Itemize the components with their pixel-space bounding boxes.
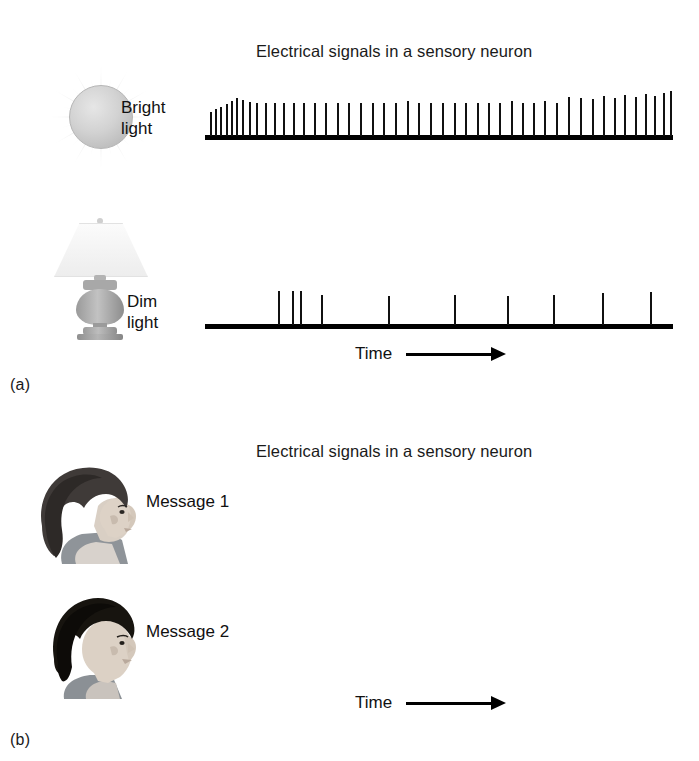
- panel-b-label: (b): [10, 731, 30, 749]
- spike: [654, 96, 656, 136]
- spike: [507, 296, 509, 325]
- spike: [325, 103, 327, 136]
- spike: [568, 97, 570, 136]
- spike: [383, 103, 385, 136]
- spike: [624, 95, 626, 136]
- row-label-message-2: Message 2: [146, 621, 229, 642]
- panel-b: Electrical signals in a sensory neuron M…: [0, 405, 699, 761]
- spike: [314, 103, 316, 136]
- spike: [321, 295, 323, 325]
- spike: [348, 103, 350, 136]
- spike: [418, 103, 420, 136]
- spike: [614, 98, 616, 136]
- spike: [650, 292, 652, 325]
- spike-train-figure: Electrical signals in a sensory neuron B…: [0, 0, 699, 761]
- spike-train-dim-light: [205, 283, 673, 329]
- spike: [226, 104, 228, 136]
- spike: [407, 101, 409, 136]
- row-label-bright-light: Bright light: [121, 97, 165, 139]
- spike: [265, 103, 267, 136]
- spike: [592, 99, 594, 136]
- row-label-message-1: Message 1: [146, 491, 229, 512]
- spike: [278, 291, 280, 325]
- spike: [477, 103, 479, 136]
- right-arrow-icon: [406, 349, 506, 359]
- panel-a-title: Electrical signals in a sensory neuron: [256, 42, 532, 61]
- row-label-dim-light: Dim light: [127, 291, 158, 333]
- lamp-body: [76, 289, 124, 325]
- spike: [388, 296, 390, 325]
- panel-b-title: Electrical signals in a sensory neuron: [256, 442, 532, 461]
- spike-train-bright-light: [205, 88, 673, 140]
- spike: [663, 93, 665, 136]
- spike: [522, 103, 524, 136]
- spike: [499, 103, 501, 136]
- lamp-foot: [77, 334, 123, 340]
- spike: [337, 103, 339, 136]
- spike: [256, 103, 258, 136]
- spike: [293, 103, 295, 136]
- spike: [544, 101, 546, 136]
- time-axis-b: Time: [355, 693, 506, 713]
- spike: [442, 103, 444, 136]
- spike: [488, 103, 490, 136]
- spike: [292, 291, 294, 325]
- spike: [215, 109, 217, 136]
- spike: [511, 101, 513, 136]
- right-arrow-icon: [406, 698, 506, 708]
- face-profile-man-icon: [12, 581, 140, 701]
- spike: [602, 293, 604, 325]
- spike: [210, 112, 212, 136]
- panel-a: Electrical signals in a sensory neuron B…: [0, 0, 699, 405]
- spike: [670, 91, 672, 136]
- time-axis-a: Time: [355, 344, 506, 364]
- spike: [553, 295, 555, 325]
- spike: [430, 103, 432, 136]
- spike: [231, 101, 233, 136]
- lamp-shade: [54, 223, 148, 277]
- spike: [236, 98, 238, 136]
- spike: [300, 291, 302, 325]
- spike: [465, 103, 467, 136]
- spike: [360, 103, 362, 136]
- time-axis-label: Time: [355, 693, 392, 713]
- panel-a-label: (a): [10, 376, 30, 394]
- spike: [454, 103, 456, 136]
- spike: [556, 103, 558, 136]
- spike: [635, 97, 637, 136]
- face-profile-woman-icon: [12, 452, 140, 570]
- spike: [303, 103, 305, 136]
- spike: [533, 103, 535, 136]
- time-axis-label: Time: [355, 344, 392, 364]
- spike: [274, 103, 276, 136]
- spike: [249, 102, 251, 136]
- spike: [283, 103, 285, 136]
- spike: [395, 103, 397, 136]
- spike: [372, 103, 374, 136]
- spike: [242, 100, 244, 136]
- spike: [454, 295, 456, 325]
- spike: [220, 107, 222, 136]
- spike: [603, 96, 605, 136]
- spike: [580, 98, 582, 136]
- spike: [645, 94, 647, 136]
